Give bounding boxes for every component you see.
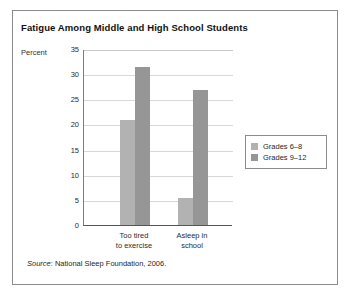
source-note: Source: National Sleep Foundation, 2006. (27, 259, 166, 268)
bar (120, 120, 135, 225)
gridline (84, 100, 233, 101)
bar (178, 198, 193, 225)
bar (193, 90, 208, 225)
figure-root: Fatigue Among Middle and High School Stu… (0, 0, 352, 293)
source-text: : National Sleep Foundation, 2006. (51, 259, 167, 268)
legend-swatch (251, 143, 258, 150)
gridline (84, 75, 233, 76)
y-tick-label: 10 (53, 171, 79, 180)
source-label: Source (27, 259, 51, 268)
y-tick-label: 35 (53, 45, 79, 54)
y-tick-label: 20 (53, 120, 79, 129)
y-axis-unit-label: Percent (21, 48, 47, 57)
y-tick-label: 25 (53, 95, 79, 104)
gridline (84, 125, 233, 126)
bar (135, 67, 150, 225)
gridline (84, 151, 233, 152)
chart-title: Fatigue Among Middle and High School Stu… (21, 22, 248, 33)
legend-label: Grades 6–8 (263, 142, 302, 151)
gridline (84, 201, 233, 202)
category-label-line: Asleep in (157, 231, 227, 241)
y-tick-label: 30 (53, 70, 79, 79)
legend-item: Grades 6–8 (251, 141, 320, 152)
y-tick-label: 15 (53, 146, 79, 155)
gridline (84, 50, 233, 51)
legend-label: Grades 9–12 (263, 153, 306, 162)
category-label: Asleep inschool (157, 231, 227, 250)
plot-area (83, 50, 232, 226)
legend: Grades 6–8Grades 9–12 (245, 135, 327, 169)
y-tick-label: 5 (53, 196, 79, 205)
y-tick-label: 0 (53, 221, 79, 230)
gridline (84, 176, 233, 177)
category-label-line: school (157, 241, 227, 251)
legend-item: Grades 9–12 (251, 152, 320, 163)
legend-swatch (251, 154, 258, 161)
